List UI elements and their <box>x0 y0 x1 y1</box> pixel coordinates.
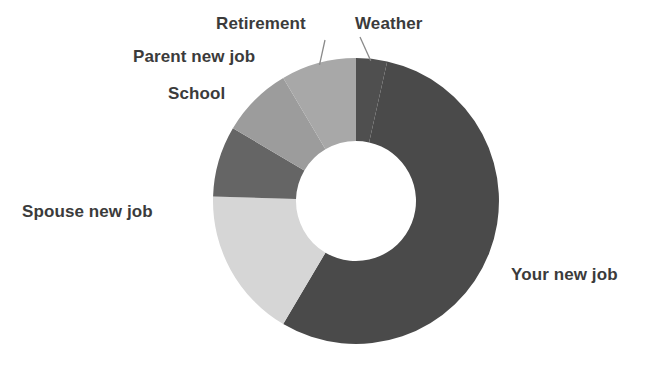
slice-label-school: School <box>168 84 225 104</box>
chart-canvas: Retirement Weather Parent new job School… <box>0 0 670 377</box>
slice-label-weather: Weather <box>355 14 422 34</box>
slice-label-parent-new-job: Parent new job <box>133 47 255 67</box>
slice-label-spouse-new-job: Spouse new job <box>22 202 153 222</box>
slice-label-your-new-job: Your new job <box>511 265 618 285</box>
slice-label-retirement: Retirement <box>216 14 306 34</box>
leader-line-retirement <box>320 40 325 65</box>
donut-slices-group <box>213 58 499 344</box>
leader-line-weather <box>360 37 371 61</box>
donut-chart <box>0 0 670 377</box>
